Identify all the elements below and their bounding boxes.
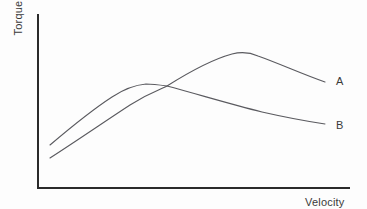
chart-axes: [38, 14, 350, 188]
curve-series-a: [50, 53, 325, 158]
torque-velocity-chart: Torque Velocity A B: [0, 0, 367, 209]
series-label-a: A: [336, 75, 343, 87]
curve-series-b: [50, 84, 325, 145]
x-axis-label: Velocity: [305, 196, 345, 208]
y-axis-label: Torque: [12, 0, 24, 45]
chart-plot-area: [0, 0, 367, 209]
series-label-b: B: [336, 119, 343, 131]
